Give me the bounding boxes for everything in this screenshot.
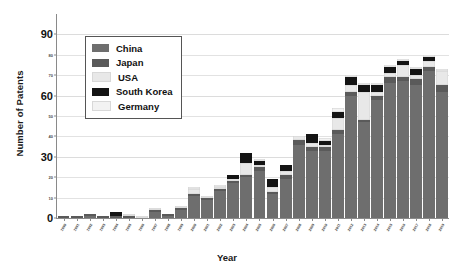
x-tick: 1995 [123,218,135,250]
x-tick-label: 2006 [269,223,276,232]
x-tick: 1992 [84,218,96,250]
x-tick-mark [194,218,195,221]
x-tick-label: 2009 [308,223,315,232]
bar-segment [267,179,279,187]
bar-segment [240,163,252,175]
x-tick: 1996 [136,218,148,250]
legend-item-germany: Germany [92,99,172,114]
legend-swatch-icon [92,59,109,67]
x-tick-mark [246,218,247,221]
bar-column [397,14,409,218]
y-tick-label-20: 20 [49,175,53,180]
bar-segment [397,65,409,77]
legend-item-japan: Japan [92,56,172,71]
x-tick: 2007 [280,218,292,250]
x-tick-mark [416,218,417,221]
x-tick-mark [181,218,182,221]
x-tick-mark [377,218,378,221]
x-tick-mark [351,218,352,221]
bar-segment [397,81,409,218]
bar-segment [358,122,370,218]
bar-column [254,14,266,218]
legend-item-usa: USA [92,70,172,85]
bar-column [201,14,213,218]
bar-column [240,14,252,218]
x-tick-mark [273,218,274,221]
x-tick-label: 2014 [373,223,380,232]
bar-column [332,14,344,218]
bar-column [319,14,331,218]
bar-segment [175,210,187,218]
x-tick-mark [233,218,234,221]
bar-segment [188,196,200,218]
x-tick-label: 1996 [138,223,145,232]
x-tick: 2009 [306,218,318,250]
x-tick-mark [403,218,404,221]
bar-column [371,14,383,218]
x-tick-label: 2002 [216,223,223,232]
bar-column [71,14,83,218]
y-tick-label-0: 0 [47,212,53,224]
x-tick: 1999 [175,218,187,250]
x-tick-mark [364,218,365,221]
bar-column [267,14,279,218]
legend-item-south-korea: South Korea [92,85,172,100]
x-tick: 2000 [188,218,200,250]
legend-label: USA [118,72,138,83]
x-tick-label: 2007 [282,223,289,232]
bar-segment [358,92,370,121]
bar-segment [214,191,226,218]
legend-label: Germany [118,101,159,112]
y-tick-label-50: 50 [49,114,53,119]
x-tick-mark [286,218,287,221]
x-tick-mark [142,218,143,221]
x-tick-label: 1995 [125,223,132,232]
x-tick: 2012 [345,218,357,250]
x-tick-label: 1997 [151,223,158,232]
bar-column [188,14,200,218]
x-tick: 2018 [423,218,435,250]
x-tick-mark [116,218,117,221]
x-tick-mark [312,218,313,221]
bar-segment [332,118,344,130]
legend-swatch-icon [92,72,111,82]
bar-segment [293,145,305,218]
legend-label: China [116,43,142,54]
x-tick: 1997 [149,218,161,250]
x-tick-mark [390,218,391,221]
bar-column [384,14,396,218]
bar-segment [332,134,344,218]
bar-segment [240,177,252,218]
bar-segment [436,71,448,85]
x-tick-mark [207,218,208,221]
x-tick-label: 1991 [73,223,80,232]
x-tick: 2011 [332,218,344,250]
x-tick: 2001 [201,218,213,250]
chart-legend: ChinaJapanUSASouth KoreaGermany [85,36,182,119]
bar-segment [345,77,357,85]
x-tick-mark [220,218,221,221]
legend-swatch-icon [92,44,109,52]
x-tick-mark [299,218,300,221]
bar-column [358,14,370,218]
bar-segment [345,96,357,218]
x-tick-label: 1990 [60,223,67,232]
x-tick-label: 2000 [190,223,197,232]
bar-segment [254,171,266,218]
x-tick-label: 2018 [425,223,432,232]
x-tick-label: 2001 [203,223,210,232]
bar-segment [384,83,396,218]
bar-segment [306,134,318,142]
x-tick: 1998 [162,218,174,250]
x-tick: 2017 [410,218,422,250]
x-tick-mark [429,218,430,221]
x-axis-title: Year [0,252,454,263]
x-tick: 2010 [319,218,331,250]
bar-segment [371,100,383,218]
x-tick: 2015 [384,218,396,250]
y-tick-label-80: 80 [49,52,53,57]
x-tick-label: 2017 [412,223,419,232]
x-tick-label: 2016 [399,223,406,232]
x-tick: 2008 [293,218,305,250]
bar-column [345,14,357,218]
